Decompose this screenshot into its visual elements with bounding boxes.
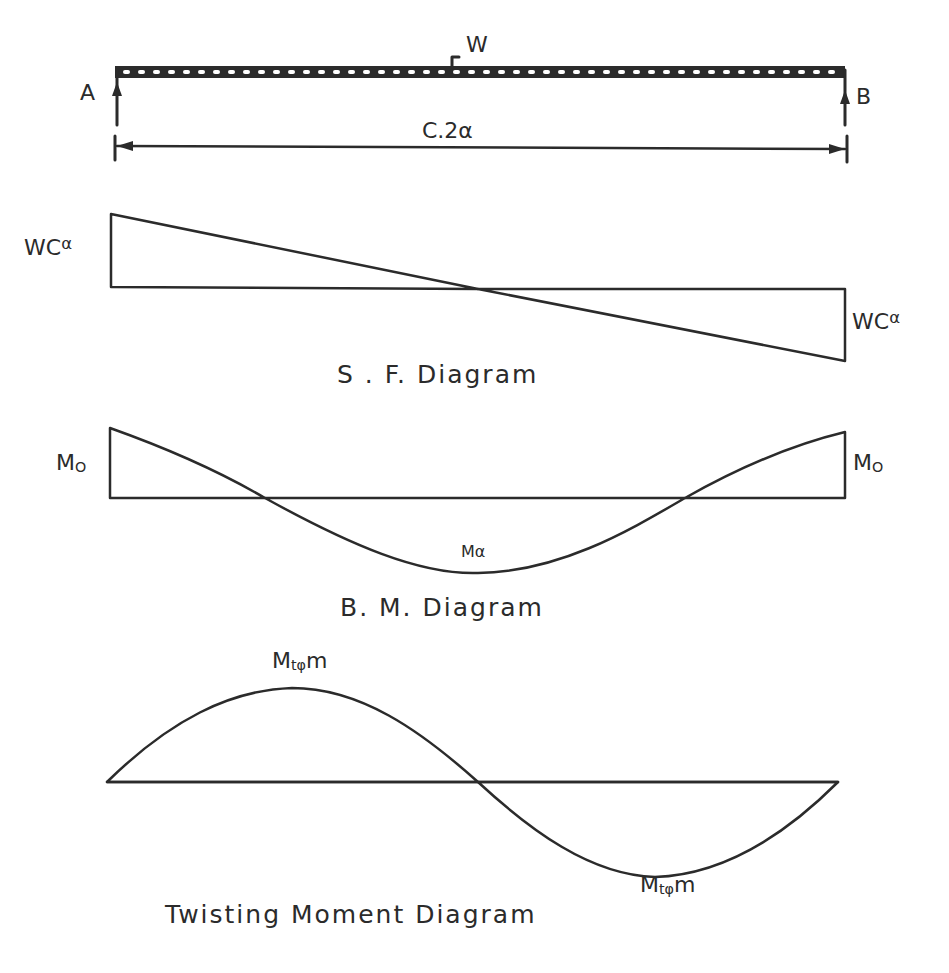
tm-trough-label: Mtφm — [640, 872, 695, 897]
arrowhead-left-icon — [117, 141, 133, 151]
span-label: C.2α — [422, 118, 473, 143]
support-a-arrow-icon — [112, 82, 122, 96]
sf-diagram-title: S . F. Diagram — [337, 360, 538, 389]
bm-right-label: MO — [853, 450, 883, 475]
bm-left-label: MO — [56, 450, 86, 475]
load-label: W — [466, 32, 488, 57]
tm-diagram-title: Twisting Moment Diagram — [165, 900, 537, 929]
sf-diagram — [111, 214, 845, 361]
sf-left-label: WCα — [24, 234, 72, 260]
bm-diagram-title: B. M. Diagram — [340, 593, 544, 622]
diagram-canvas — [0, 0, 949, 973]
support-b-arrow-icon — [840, 90, 850, 104]
tm-diagram — [107, 688, 838, 877]
beam-load-band — [115, 66, 845, 78]
tm-peak-label: Mtφm — [272, 648, 327, 673]
arrowhead-right-icon — [829, 144, 845, 154]
span-dimension — [115, 136, 847, 162]
beam — [112, 57, 850, 125]
sf-right-label: WCα — [852, 308, 900, 334]
bm-mid-label: Mα — [461, 542, 485, 561]
support-b-label: B — [856, 84, 871, 109]
support-a-label: A — [80, 80, 95, 105]
